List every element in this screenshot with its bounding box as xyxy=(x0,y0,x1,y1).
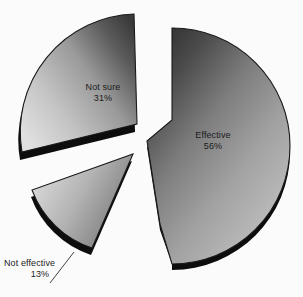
slice-not-effective xyxy=(31,154,133,255)
pie-chart: Not sure 31% Effective 56% Not effective… xyxy=(0,0,303,297)
leader-line-not-effective xyxy=(50,252,74,283)
slice-not-sure xyxy=(18,14,137,160)
slice-not-effective-body xyxy=(32,154,133,248)
slice-effective xyxy=(147,28,290,270)
pie-chart-canvas xyxy=(0,0,303,297)
slice-effective-body xyxy=(147,28,290,264)
